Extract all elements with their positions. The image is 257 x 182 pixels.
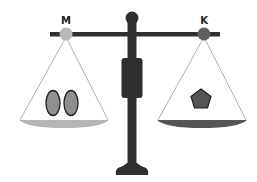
scale-base — [116, 163, 149, 175]
right-pan-string-right — [204, 37, 246, 120]
left-pan-dish — [19, 120, 109, 128]
scale-beam — [50, 32, 220, 37]
right-pan: K — [157, 15, 247, 128]
left-pan-weight-oval-2 — [64, 91, 78, 116]
right-pan-label: K — [200, 15, 209, 26]
right-pivot — [198, 28, 211, 41]
left-pan: M — [19, 15, 109, 128]
scale-post-sleeve — [122, 58, 143, 98]
left-pivot — [60, 28, 73, 41]
balance-scale-diagram: M K — [0, 0, 257, 182]
left-pan-label: M — [61, 15, 71, 26]
left-pan-weight-oval-1 — [46, 91, 60, 116]
right-pan-weight-pentagon — [191, 89, 211, 108]
right-pan-dish — [157, 120, 247, 128]
scale-top-knob — [126, 12, 139, 25]
